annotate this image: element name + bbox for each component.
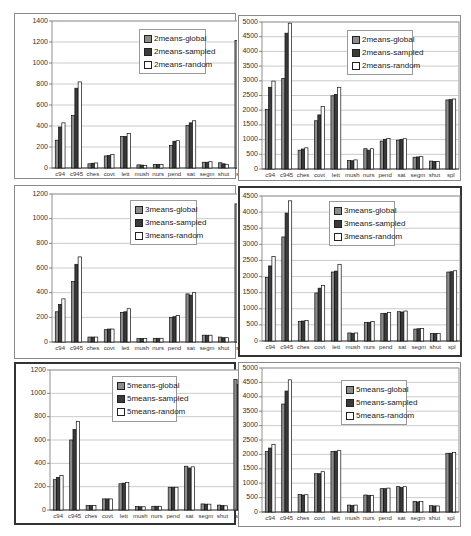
y-tick-label: 200 <box>26 313 48 320</box>
bar-global-pend <box>380 141 383 169</box>
bar-sampled-mush <box>351 161 354 169</box>
bar-sampled-ches <box>89 506 92 510</box>
bar-sampled-segm <box>416 502 419 512</box>
bar-global-sat <box>397 312 400 341</box>
bar-sampled-c945 <box>285 33 288 169</box>
bar-global-ches <box>298 150 301 169</box>
bar-sampled-spl <box>450 272 453 341</box>
legend-swatch-icon <box>135 206 143 214</box>
x-tick-label: sat <box>182 513 198 519</box>
legend-label: 2means-sampled <box>154 47 215 56</box>
x-tick-label: covt <box>99 513 115 519</box>
bar-sampled-covt <box>106 499 109 510</box>
bar-global-pend <box>170 145 173 168</box>
y-tick-label: 4000 <box>236 47 258 54</box>
bar-random-c94 <box>272 444 275 512</box>
x-tick-label: covt <box>311 172 327 178</box>
x-tick-label: lett <box>116 513 132 519</box>
bar-sampled-spl <box>449 100 452 169</box>
y-tick-label: 0 <box>236 337 258 344</box>
x-tick-label: lett <box>328 344 344 350</box>
x-tick-label: sat <box>183 171 199 177</box>
bar-random-c94 <box>272 257 275 341</box>
bar-sampled-nurs <box>157 338 160 342</box>
y-tick-label: 600 <box>26 101 48 108</box>
x-tick-label: mush <box>345 344 361 350</box>
x-tick-label: sat <box>394 344 410 350</box>
bar-global-mush <box>137 165 140 168</box>
bar-random-c945 <box>78 82 81 168</box>
legend-label: 5means-sampled <box>356 398 417 407</box>
y-tick-label: 200 <box>24 482 46 489</box>
bar-sampled-c94 <box>59 304 62 342</box>
bar-random-lett <box>126 483 129 510</box>
legend-swatch-icon <box>352 62 360 70</box>
bar-sampled-c94 <box>269 266 272 341</box>
legend-item-random: 2means-random <box>352 59 408 72</box>
x-tick-label: mush <box>134 171 150 177</box>
bar-random-pend <box>387 138 390 169</box>
bar-random-covt <box>321 286 324 341</box>
bar-global-ches <box>88 164 91 168</box>
y-tick-label: 800 <box>24 412 46 419</box>
y-tick-label: 1400 <box>26 17 48 24</box>
legend-swatch-icon <box>135 219 143 227</box>
y-tick-label: 3500 <box>236 224 258 231</box>
bar-sampled-segm <box>417 329 420 341</box>
bar-sampled-c945 <box>75 264 78 342</box>
x-tick-label: pend <box>167 171 183 177</box>
bar-global-segm <box>413 501 416 512</box>
y-tick-label: 5000 <box>236 18 258 25</box>
bar-random-c945 <box>76 421 79 510</box>
chart-panel-1: 0200400600800100012001400c94c945chescovt… <box>14 13 236 179</box>
bar-global-sat <box>185 466 188 510</box>
bar-global-nurs <box>153 164 156 168</box>
legend-swatch-icon <box>346 386 354 394</box>
bar-global-segm <box>202 162 205 168</box>
bar-random-spl <box>452 99 455 169</box>
x-tick-label: ches <box>295 515 311 521</box>
x-tick-label: mush <box>344 172 360 178</box>
x-tick-label: sat <box>183 345 199 351</box>
bar-global-c94 <box>53 480 56 510</box>
bar-sampled-c94 <box>269 448 272 512</box>
y-tick-label: 2500 <box>236 91 258 98</box>
y-tick-label: 2000 <box>236 106 258 113</box>
bar-sampled-c94 <box>269 87 272 169</box>
bar-global-sat <box>397 487 400 512</box>
chart-panel-6: 0500100015002000250030003500400045005000… <box>238 362 461 527</box>
x-tick-label: pend <box>167 345 183 351</box>
x-tick-label: ches <box>85 171 101 177</box>
bar-random-sat <box>192 293 195 342</box>
x-tick-label: segm <box>199 171 215 177</box>
x-tick-label: mush <box>132 513 148 519</box>
bar-global-nurs <box>152 506 155 510</box>
x-tick-label: nurs <box>361 172 377 178</box>
bar-global-lett <box>331 272 334 341</box>
bar-random-lett <box>127 309 130 342</box>
chart-panel-3: 020040060080010001200c94c945chescovtlett… <box>14 185 236 359</box>
bar-random-segm <box>420 328 423 341</box>
x-tick-label: mush <box>344 515 360 521</box>
bar-sampled-segm <box>206 162 209 168</box>
x-tick-label: lett <box>118 345 134 351</box>
legend-item-sampled: 2means-sampled <box>144 45 201 58</box>
x-tick-label: segm <box>410 515 426 521</box>
bar-global-pend <box>170 317 173 342</box>
bar-random-pend <box>176 141 179 168</box>
bar-global-mush <box>137 339 140 342</box>
legend-label: 2means-random <box>362 61 420 70</box>
bar-global-ches <box>86 506 89 510</box>
y-tick-label: 0 <box>26 338 48 345</box>
bar-random-sat <box>404 311 407 341</box>
bar-random-c94 <box>60 476 63 510</box>
bar-sampled-sat <box>188 468 191 510</box>
x-tick-label: mush <box>134 345 150 351</box>
x-tick-label: covt <box>101 345 117 351</box>
bar-random-spl <box>452 452 455 512</box>
legend-swatch-icon <box>334 207 342 215</box>
bar-global-shut <box>429 506 432 512</box>
legend-label: 5means-sampled <box>127 394 188 403</box>
legend-item-global: 3means-global <box>135 203 192 216</box>
y-tick-label: 1000 <box>24 389 46 396</box>
